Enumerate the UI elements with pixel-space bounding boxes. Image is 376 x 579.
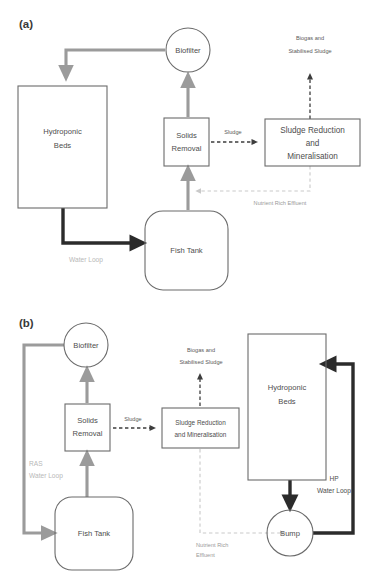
- aquaponics-diagram: (a) Biofilter Hydroponic Beds Solids Rem…: [0, 0, 376, 579]
- flow-label-b-biogas-line1: Biogas and: [187, 347, 215, 353]
- flow-label-a-biogas-line1: Biogas and: [296, 35, 324, 41]
- node-b-solids-removal-label-line2: Removal: [73, 429, 103, 438]
- flow-label-b-nutrient-line1: Nutrient Rich: [196, 542, 228, 548]
- node-b-hydroponic-beds-label-line2: Beds: [278, 397, 296, 406]
- node-a-biofilter-label: Biofilter: [175, 46, 201, 55]
- node-a-sludge-reduction-label-line1: Sludge Reduction: [280, 126, 345, 135]
- flow-label-a-sludge: Sludge: [224, 129, 241, 135]
- node-b-biofilter-label: Biofilter: [73, 341, 99, 350]
- node-a-sludge-reduction-label-line3: Mineralisation: [287, 152, 338, 161]
- node-b-sump-label: Sump: [280, 529, 300, 538]
- flow-label-b-ras-line1: RAS: [29, 460, 43, 467]
- node-b-solids-removal-label-line1: Solids: [77, 416, 98, 425]
- flow-label-b-hp-line1: HP: [329, 475, 339, 482]
- node-a-sludge-reduction-label-line2: and: [306, 139, 320, 148]
- flow-label-b-nutrient-line2: Effluent: [196, 552, 215, 558]
- flow-label-b-hp-line2: Water Loop: [317, 487, 351, 495]
- node-a-hydroponic-beds-label-line2: Beds: [54, 141, 72, 150]
- flow-label-a-water-loop: Water Loop: [69, 256, 103, 264]
- flow-label-a-biogas-line2: Stabilised Sludge: [288, 48, 331, 54]
- node-a-solids-removal-label-line1: Solids: [176, 131, 197, 140]
- flow-label-b-ras-line2: Water Loop: [29, 472, 63, 480]
- node-b-sludge-reduction-label-line2: and Mineralisation: [175, 431, 227, 438]
- panel-b-label: (b): [19, 317, 34, 329]
- flow-label-b-sludge: Sludge: [124, 416, 141, 422]
- node-b-hydroponic-beds-label-line1: Hydroponic: [268, 383, 307, 392]
- flow-label-b-biogas-line2: Stabilised Sludge: [179, 359, 222, 365]
- node-a-hydroponic-beds-label-line1: Hydroponic: [43, 127, 82, 136]
- node-a-fish-tank-label: Fish Tank: [170, 246, 203, 255]
- figure-container: (a) Biofilter Hydroponic Beds Solids Rem…: [0, 0, 376, 579]
- node-b-sludge-reduction-label-line1: Sludge Reduction: [175, 419, 226, 427]
- flow-label-a-nutrient: Nutrient Rich Effluent: [254, 200, 307, 206]
- node-a-solids-removal-label-line2: Removal: [172, 144, 202, 153]
- panel-a-label: (a): [19, 18, 33, 30]
- node-b-fish-tank-label: Fish Tank: [78, 529, 111, 538]
